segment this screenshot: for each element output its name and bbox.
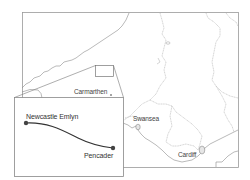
inset-label-end: Pencader — [84, 152, 113, 159]
inset-label-start: Newcastle Emlyn — [26, 113, 78, 120]
map-canvas — [0, 0, 250, 180]
cardiff-outline — [199, 146, 205, 154]
carmarthen-dot — [110, 94, 112, 96]
place-label-carmarthen: Carmarthen — [74, 88, 107, 95]
newcastle-emlyn-marker — [24, 121, 28, 125]
place-label-cardiff: Cardiff — [178, 151, 196, 158]
inset-box — [15, 98, 124, 177]
pencader-marker — [111, 146, 115, 150]
swansea-outline — [136, 124, 140, 130]
place-label-swansea: Swansea — [133, 115, 159, 122]
